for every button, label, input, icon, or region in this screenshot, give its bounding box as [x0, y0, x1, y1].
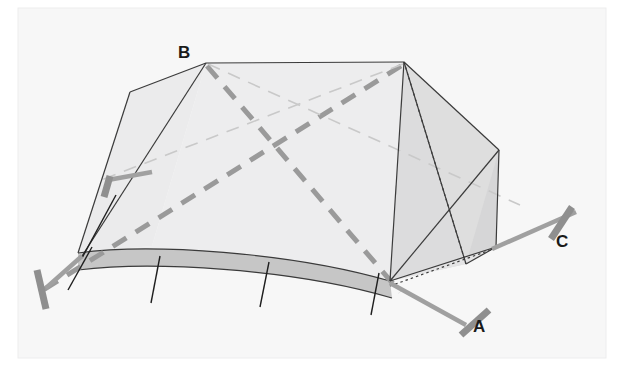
tent-body	[78, 62, 499, 298]
label-b: B	[178, 43, 190, 62]
label-a: A	[473, 317, 485, 336]
figure-canvas: B A C	[0, 0, 624, 372]
label-c: C	[556, 232, 568, 251]
tent-diagram-svg: B A C	[0, 0, 624, 372]
